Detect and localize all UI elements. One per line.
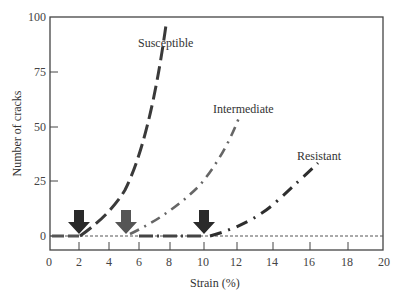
x-tick-2: 2 [76, 255, 82, 270]
x-axis-label: Strain (%) [190, 276, 240, 291]
x-tick-18: 18 [341, 255, 353, 270]
series-susceptible [80, 25, 166, 236]
x-tick-6: 6 [136, 255, 142, 270]
arrow-down-icon [193, 210, 215, 234]
x-tick-16: 16 [303, 255, 315, 270]
y-tick-100: 100 [28, 10, 46, 25]
x-tick-12: 12 [230, 255, 242, 270]
plot-frame [50, 17, 383, 250]
label-resistant: Resistant [297, 149, 341, 164]
series-resistant [210, 163, 318, 236]
x-ticks [79, 242, 348, 250]
y-tick-75: 75 [34, 65, 46, 80]
x-tick-8: 8 [166, 255, 172, 270]
x-tick-4: 4 [106, 255, 112, 270]
arrow-down-icon [115, 210, 137, 234]
x-tick-20: 20 [378, 255, 390, 270]
y-ticks [50, 72, 58, 236]
x-tick-0: 0 [46, 255, 52, 270]
label-intermediate: Intermediate [213, 102, 274, 117]
y-tick-25: 25 [34, 174, 46, 189]
y-tick-0: 0 [40, 229, 46, 244]
label-susceptible: Susceptible [138, 36, 193, 51]
x-tick-10: 10 [197, 255, 209, 270]
y-axis-label: Number of cracks [10, 79, 25, 189]
x-tick-14: 14 [266, 255, 278, 270]
y-tick-50: 50 [34, 120, 46, 135]
